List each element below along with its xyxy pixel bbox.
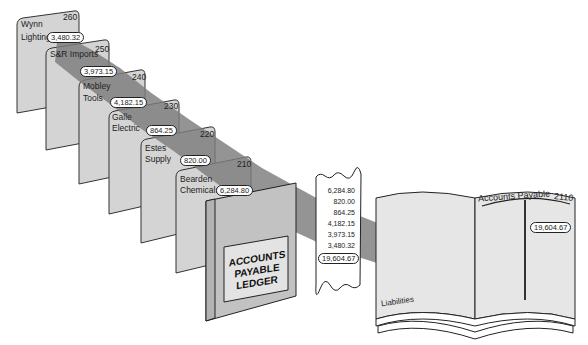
diagram-canvas — [0, 0, 588, 345]
general-ledger-book — [376, 192, 575, 339]
ledger-folder — [206, 183, 296, 321]
adding-machine-tape — [316, 167, 361, 294]
